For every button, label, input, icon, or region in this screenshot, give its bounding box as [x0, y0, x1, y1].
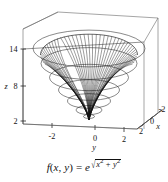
z-tick-label-14: 14 — [9, 45, 17, 54]
formula-radical: √x2 + y2 — [90, 159, 121, 169]
formula-exponent: √x2 + y2 — [90, 159, 121, 169]
formula-equals: = — [73, 161, 85, 173]
y-tick-label-0: 0 — [93, 134, 97, 143]
floor-front-edge — [23, 113, 158, 129]
formula-radicand-y-exp: 2 — [117, 157, 121, 165]
x-axis-label: x — [155, 122, 160, 131]
y-axis-ticks — [52, 123, 124, 132]
y-axis-label: y — [91, 143, 96, 152]
surface-wireframe — [33, 30, 145, 120]
x-tick-label-2: 2 — [139, 127, 143, 136]
sqrt-icon: √ — [91, 159, 95, 170]
surface-plot-figure: 14 8 2 z -2 0 2 y 2 0 -2 x — [0, 0, 168, 182]
y-tick-label-2: 2 — [122, 135, 126, 144]
x-tick-label-neg2: -2 — [159, 105, 166, 114]
formula-radicand: x2 + y2 — [95, 159, 121, 169]
z-tick-label-8: 8 — [13, 82, 17, 91]
surface-plot-canvas: 14 8 2 z -2 0 2 y 2 0 -2 x — [0, 0, 168, 152]
function-formula: f(x, y) = e√x2 + y2 — [47, 161, 122, 173]
z-tick-label-2: 2 — [13, 117, 17, 126]
y-tick-label-neg2: -2 — [49, 132, 56, 141]
z-axis-label: z — [3, 82, 8, 91]
formula-plus: + — [104, 160, 113, 169]
figure-caption: f(x, y) = e√x2 + y2 — [0, 152, 168, 182]
